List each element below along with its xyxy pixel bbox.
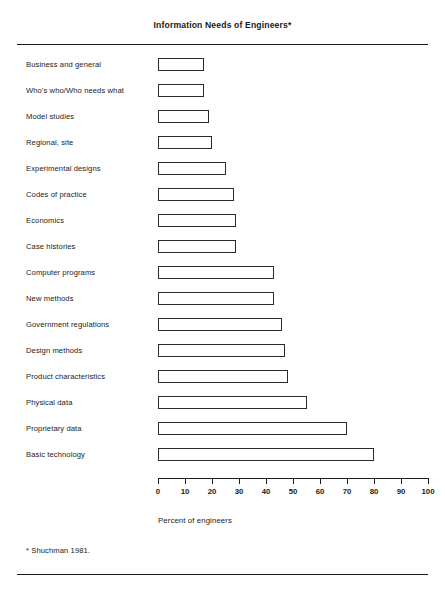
- chart-row: Codes of practice: [0, 182, 445, 208]
- bar: [158, 396, 307, 409]
- bar: [158, 214, 236, 227]
- chart-row: Regional, site: [0, 130, 445, 156]
- category-label: Experimental designs: [26, 156, 154, 182]
- chart-page: Information Needs of Engineers* Business…: [0, 0, 445, 595]
- chart-row: Who's who/Who needs what: [0, 78, 445, 104]
- bar: [158, 110, 209, 123]
- x-axis-tick-label: 70: [332, 487, 362, 496]
- bar: [158, 266, 274, 279]
- category-label: Economics: [26, 208, 154, 234]
- x-axis-tick: [212, 478, 213, 484]
- bottom-divider-rule: [17, 574, 428, 575]
- bar: [158, 344, 285, 357]
- category-label: Case histories: [26, 234, 154, 260]
- chart-row: Business and general: [0, 52, 445, 78]
- x-axis-tick: [428, 478, 429, 484]
- x-axis-tick-label: 80: [359, 487, 389, 496]
- chart-row: Economics: [0, 208, 445, 234]
- chart-row: Case histories: [0, 234, 445, 260]
- x-axis-tick-label: 60: [305, 487, 335, 496]
- bar: [158, 448, 374, 461]
- category-label: Business and general: [26, 52, 154, 78]
- category-label: Design methods: [26, 338, 154, 364]
- x-axis-tick: [401, 478, 402, 484]
- x-axis-tick: [293, 478, 294, 484]
- category-label: Proprietary data: [26, 416, 154, 442]
- category-label: New methods: [26, 286, 154, 312]
- x-axis-tick-label: 0: [143, 487, 173, 496]
- x-axis-tick: [266, 478, 267, 484]
- chart-footnote: * Shuchman 1981.: [26, 546, 90, 555]
- x-axis-tick-label: 10: [170, 487, 200, 496]
- chart-title: Information Needs of Engineers*: [0, 20, 445, 30]
- chart-row: Government regulations: [0, 312, 445, 338]
- x-axis-tick-label: 30: [224, 487, 254, 496]
- chart-row: Experimental designs: [0, 156, 445, 182]
- chart-row: New methods: [0, 286, 445, 312]
- bar: [158, 162, 226, 175]
- x-axis-tick: [347, 478, 348, 484]
- x-axis-tick: [185, 478, 186, 484]
- plot-area: Business and generalWho's who/Who needs …: [0, 52, 445, 472]
- chart-row: Product characteristics: [0, 364, 445, 390]
- chart-row: Proprietary data: [0, 416, 445, 442]
- chart-row: Computer programs: [0, 260, 445, 286]
- chart-row: Basic technology: [0, 442, 445, 468]
- bar: [158, 58, 204, 71]
- chart-row: Physical data: [0, 390, 445, 416]
- bar: [158, 292, 274, 305]
- bar: [158, 370, 288, 383]
- x-axis-tick: [374, 478, 375, 484]
- chart-row: Design methods: [0, 338, 445, 364]
- bar: [158, 240, 236, 253]
- x-axis-title: Percent of engineers: [158, 516, 232, 525]
- x-axis-tick: [320, 478, 321, 484]
- bar: [158, 422, 347, 435]
- category-label: Model studies: [26, 104, 154, 130]
- bar: [158, 136, 212, 149]
- category-label: Computer programs: [26, 260, 154, 286]
- x-axis-tick: [239, 478, 240, 484]
- x-axis-tick-label: 50: [278, 487, 308, 496]
- category-label: Government regulations: [26, 312, 154, 338]
- category-label: Who's who/Who needs what: [26, 78, 154, 104]
- chart-row: Model studies: [0, 104, 445, 130]
- bar: [158, 318, 282, 331]
- x-axis-tick-label: 100: [413, 487, 443, 496]
- bar: [158, 84, 204, 97]
- category-label: Basic technology: [26, 442, 154, 468]
- x-axis-tick-label: 20: [197, 487, 227, 496]
- category-label: Physical data: [26, 390, 154, 416]
- top-divider-rule: [17, 44, 428, 45]
- category-label: Product characteristics: [26, 364, 154, 390]
- category-label: Regional, site: [26, 130, 154, 156]
- x-axis-tick-label: 40: [251, 487, 281, 496]
- bar: [158, 188, 234, 201]
- x-axis-tick: [158, 478, 159, 484]
- category-label: Codes of practice: [26, 182, 154, 208]
- x-axis-tick-label: 90: [386, 487, 416, 496]
